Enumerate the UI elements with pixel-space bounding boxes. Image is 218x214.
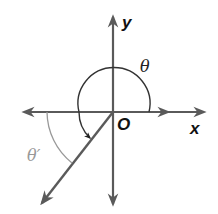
terminal-ray: [42, 112, 113, 203]
origin-label: O: [117, 115, 130, 134]
angle-diagram: y x O θ θ′: [0, 0, 218, 214]
theta-prime-label: θ′: [27, 146, 41, 165]
x-axis-label: x: [189, 119, 201, 138]
theta-label: θ: [140, 57, 150, 76]
reference-angle-arc: [47, 112, 72, 163]
y-axis-label: y: [121, 13, 133, 32]
